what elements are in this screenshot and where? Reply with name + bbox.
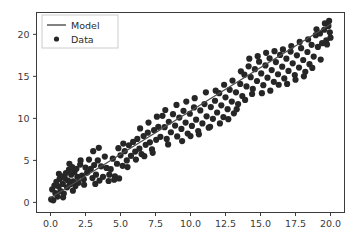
data-point xyxy=(124,164,130,170)
data-point xyxy=(246,56,252,62)
data-point xyxy=(284,81,290,87)
y-tick-label: 15 xyxy=(17,71,29,82)
data-point xyxy=(254,78,260,84)
data-point xyxy=(255,53,261,59)
data-point xyxy=(170,111,176,117)
data-point xyxy=(318,56,324,62)
data-point xyxy=(95,157,101,163)
data-point xyxy=(134,136,140,142)
data-point xyxy=(183,98,189,104)
data-point xyxy=(281,75,287,81)
x-tick-label: 15.0 xyxy=(250,218,271,229)
x-tick-label: 12.5 xyxy=(215,218,236,229)
data-point xyxy=(326,18,332,24)
data-point xyxy=(157,134,163,140)
y-tick-label: 0 xyxy=(23,197,29,208)
data-point xyxy=(197,107,203,113)
data-point xyxy=(233,89,239,95)
data-point xyxy=(218,102,224,108)
legend-box: Model Data xyxy=(42,15,118,48)
data-point xyxy=(269,67,275,73)
data-point xyxy=(108,166,114,172)
data-point xyxy=(285,68,291,74)
data-point xyxy=(70,188,76,194)
data-point xyxy=(222,94,228,100)
y-tick-label: 5 xyxy=(23,155,29,166)
data-point xyxy=(212,98,218,104)
data-point xyxy=(327,29,333,35)
data-point xyxy=(111,177,117,183)
x-tick-label: 20.0 xyxy=(320,218,341,229)
data-point xyxy=(234,106,240,112)
data-point xyxy=(172,122,178,128)
data-point xyxy=(187,133,193,139)
data-point xyxy=(56,171,62,177)
data-point xyxy=(137,125,143,131)
data-point xyxy=(324,41,330,47)
data-point xyxy=(90,148,96,154)
data-point xyxy=(66,161,72,167)
data-point xyxy=(114,161,120,167)
data-point xyxy=(60,194,66,200)
data-point xyxy=(229,98,235,104)
y-tick-label: 20 xyxy=(17,29,29,40)
data-point xyxy=(238,68,244,74)
data-point xyxy=(304,49,310,55)
data-point xyxy=(193,117,199,123)
data-point xyxy=(133,156,139,162)
data-point xyxy=(145,119,151,125)
data-point xyxy=(279,64,285,70)
data-point xyxy=(203,89,209,95)
data-point xyxy=(260,82,266,88)
data-point xyxy=(179,138,185,144)
x-tick-label: 0.0 xyxy=(43,218,58,229)
data-point xyxy=(249,91,255,97)
data-point xyxy=(174,133,180,139)
data-point xyxy=(221,82,227,88)
data-point xyxy=(159,113,165,119)
data-point xyxy=(136,146,142,152)
data-point xyxy=(86,156,92,162)
data-point xyxy=(178,126,184,132)
data-point xyxy=(225,106,231,112)
data-point xyxy=(283,56,289,62)
data-point xyxy=(210,116,216,122)
data-point xyxy=(214,109,220,115)
chart-figure: 0.02.55.07.510.012.515.017.520.005101520… xyxy=(0,0,361,248)
data-point xyxy=(196,131,202,137)
data-point xyxy=(92,181,98,187)
data-point xyxy=(162,107,168,113)
x-tick-label: 5.0 xyxy=(113,218,128,229)
data-point xyxy=(275,71,281,77)
data-point xyxy=(296,64,302,70)
data-point xyxy=(242,97,248,103)
data-point xyxy=(154,114,160,120)
data-point xyxy=(276,82,282,88)
data-point xyxy=(280,46,286,52)
data-point xyxy=(264,75,270,81)
data-point xyxy=(290,60,296,66)
x-tick-label: 7.5 xyxy=(148,218,163,229)
data-point xyxy=(106,178,112,184)
data-point xyxy=(256,59,262,65)
data-point xyxy=(141,153,147,159)
data-point xyxy=(204,113,210,119)
y-tick-label: 10 xyxy=(17,113,29,124)
data-point xyxy=(93,172,99,178)
data-point xyxy=(292,77,298,83)
data-point xyxy=(150,150,156,156)
data-point xyxy=(81,182,87,188)
data-point xyxy=(301,73,307,79)
data-point xyxy=(311,54,317,60)
data-point xyxy=(225,116,231,122)
data-point xyxy=(267,88,273,94)
data-point xyxy=(213,88,219,94)
data-point xyxy=(300,57,306,63)
legend-label-data: Data xyxy=(71,34,94,45)
data-point xyxy=(259,90,265,96)
x-tick-label: 17.5 xyxy=(285,218,306,229)
data-point xyxy=(207,124,213,130)
data-point xyxy=(208,104,214,110)
data-point xyxy=(309,42,315,48)
data-point xyxy=(298,45,304,51)
